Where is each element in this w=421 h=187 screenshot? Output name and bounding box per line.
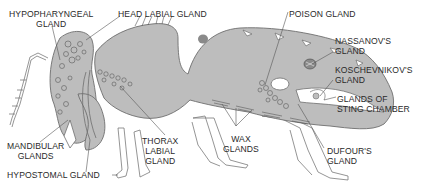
bee-gland-diagram: HYPOPHARYNGEAL GLAND HEAD LABIAL GLAND P… — [0, 0, 421, 187]
label-hypopharyngeal-gland: HYPOPHARYNGEAL GLAND — [9, 9, 93, 29]
label-line: STING CHAMBER — [337, 104, 410, 114]
label-glands-of-sting-chamber: GLANDS OF STING CHAMBER — [337, 94, 410, 114]
label-line: GLAND — [327, 156, 372, 166]
poison-sac — [271, 78, 289, 90]
label-line: GLANDS OF — [337, 94, 410, 104]
nassanov-gland — [304, 59, 316, 69]
label-line: HYPOPHARYNGEAL — [9, 9, 93, 19]
label-line: DUFOUR'S — [327, 146, 372, 156]
label-line: KOSCHEVNIKOV'S — [335, 65, 413, 75]
label-line: GLANDS — [223, 144, 259, 154]
label-line: LABIAL — [142, 146, 178, 156]
label-line: GLAND — [142, 156, 178, 166]
label-poison-gland: POISON GLAND — [289, 9, 356, 19]
label-wax-glands: WAX GLANDS — [223, 134, 259, 154]
label-line: GLAND — [335, 46, 391, 56]
dark-spot — [198, 35, 208, 44]
label-mandibular-glands: MANDIBULAR GLANDS — [7, 141, 64, 161]
label-thorax-labial-gland: THORAX LABIAL GLAND — [142, 136, 178, 166]
label-line: GLAND — [335, 75, 413, 85]
label-koschevnikov-gland: KOSCHEVNIKOV'S GLAND — [335, 65, 413, 85]
label-line: NASSANOV'S — [335, 36, 391, 46]
label-hypostomal-gland: HYPOSTOMAL GLAND — [7, 170, 100, 180]
label-head-labial-gland: HEAD LABIAL GLAND — [118, 9, 207, 19]
label-line: GLANDS — [7, 151, 64, 161]
antenna — [9, 53, 48, 127]
label-line: GLAND — [9, 19, 93, 29]
label-line: MANDIBULAR — [7, 141, 64, 151]
label-nassanov-gland: NASSANOV'S GLAND — [335, 36, 391, 56]
label-line: WAX — [223, 134, 259, 144]
label-dufours-gland: DUFOUR'S GLAND — [327, 146, 372, 166]
label-line: THORAX — [142, 136, 178, 146]
